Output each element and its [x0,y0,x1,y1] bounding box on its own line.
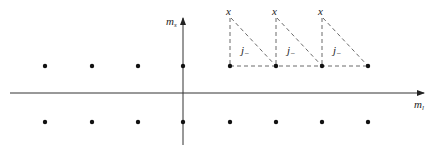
svg-text:x: x [317,5,323,17]
svg-text:x: x [271,5,277,17]
lattice-points [43,64,370,124]
lattice-point [43,120,47,124]
triangle-labels: x x x j− j− j− [225,5,341,58]
lattice-point [274,64,278,68]
ms-axis-label: ms [166,15,177,29]
ladder-triangles [230,18,368,66]
ml-axis-label: ml [414,98,424,112]
svg-text:x: x [225,5,231,17]
lattice-point [43,64,47,68]
lattice-point [274,120,278,124]
lattice-point [228,64,232,68]
svg-text:j−: j− [331,44,341,58]
svg-text:j−: j− [239,44,249,58]
lattice-point [366,120,370,124]
lattice-point [228,120,232,124]
lattice-point [320,64,324,68]
quantum-number-diagram: ms ml x x x j− j− j− [0,0,435,150]
lattice-point [320,120,324,124]
lattice-point [136,120,140,124]
lattice-point [90,64,94,68]
lattice-point [136,64,140,68]
lattice-point [90,120,94,124]
lattice-point [181,64,185,68]
lattice-point [181,120,185,124]
svg-text:j−: j− [285,44,295,58]
lattice-point [366,64,370,68]
